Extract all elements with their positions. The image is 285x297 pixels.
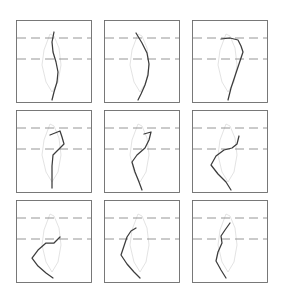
panel-r1c3-plot	[192, 20, 268, 103]
reference-outline	[218, 214, 237, 272]
trajectory-line	[216, 223, 230, 278]
figure-canvas	[0, 0, 285, 297]
trajectory-line	[136, 33, 149, 100]
panel-r1c2[interactable]	[104, 20, 180, 103]
panel-r2c2-plot	[104, 110, 180, 193]
panel-r3c3[interactable]	[192, 200, 268, 283]
reference-outline	[218, 34, 237, 92]
panel-r2c3-plot	[192, 110, 268, 193]
panel-grid	[16, 20, 268, 283]
panel-r1c1-plot	[16, 20, 92, 103]
panel-r3c1-plot	[16, 200, 92, 283]
panel-r1c1[interactable]	[16, 20, 92, 103]
panel-border	[193, 201, 268, 283]
panel-r2c1[interactable]	[16, 110, 92, 193]
panel-r1c3[interactable]	[192, 20, 268, 103]
panel-border	[17, 201, 92, 283]
panel-border	[17, 111, 92, 193]
panel-border	[105, 21, 180, 103]
panel-r3c3-plot	[192, 200, 268, 283]
reference-outline	[130, 214, 149, 272]
panel-r1c2-plot	[104, 20, 180, 103]
panel-r3c2[interactable]	[104, 200, 180, 283]
panel-r2c3[interactable]	[192, 110, 268, 193]
trajectory-line	[32, 237, 60, 278]
panel-border	[105, 201, 180, 283]
panel-r2c1-plot	[16, 110, 92, 193]
trajectory-line	[50, 131, 64, 188]
panel-r3c1[interactable]	[16, 200, 92, 283]
panel-r3c2-plot	[104, 200, 180, 283]
trajectory-line	[221, 38, 243, 100]
trajectory-line	[121, 228, 140, 278]
panel-border	[105, 111, 180, 193]
trajectory-line	[211, 136, 239, 190]
panel-r2c2[interactable]	[104, 110, 180, 193]
panel-border	[193, 111, 268, 193]
